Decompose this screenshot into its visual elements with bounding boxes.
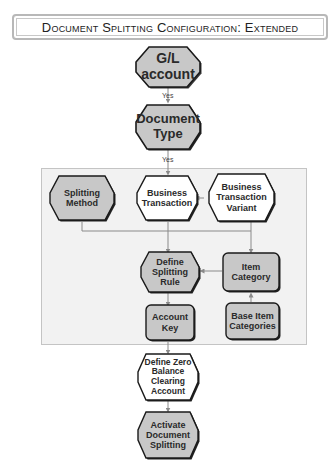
node-business-transaction-variant: Business Transaction Variant bbox=[208, 173, 275, 222]
node-item-category: Item Category bbox=[222, 252, 280, 292]
node-splitting-method: Splitting Method bbox=[49, 175, 115, 221]
edge-label-yes: Yes bbox=[162, 156, 173, 163]
node-define-zero-balance-clearing-account: Define Zero Balance Clearing Account bbox=[137, 353, 199, 401]
edge-label-yes: Yes bbox=[162, 92, 173, 99]
node-document-type: Document Type bbox=[135, 104, 201, 150]
node-gl-account: G/L account bbox=[135, 46, 201, 88]
node-business-transaction: Business Transaction bbox=[136, 175, 198, 221]
node-base-item-categories: Base Item Categories bbox=[225, 302, 280, 340]
node-define-splitting-rule: Define Splitting Rule bbox=[140, 251, 200, 293]
node-account-key: Account Key bbox=[145, 304, 195, 341]
node-activate-document-splitting: Activate Document Splitting bbox=[137, 411, 199, 459]
